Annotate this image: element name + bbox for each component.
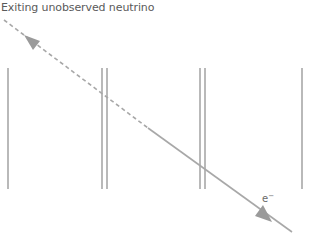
electron-charge: − [268, 192, 274, 200]
electron-track-solid [148, 128, 292, 232]
neutrino-label: Exiting unobserved neutrino [1, 1, 154, 14]
neutrino-arrow-icon [24, 35, 40, 50]
electron-label: e− [262, 192, 274, 204]
detector-planes [8, 68, 302, 189]
